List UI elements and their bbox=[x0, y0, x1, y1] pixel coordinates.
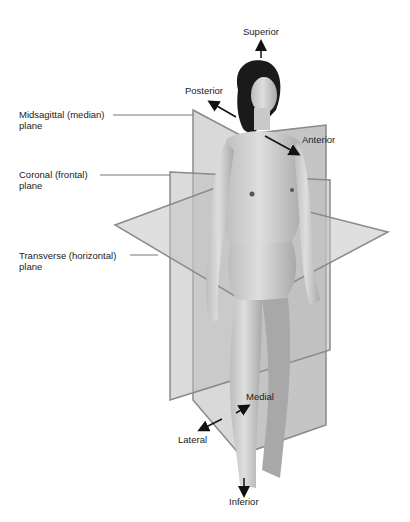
coronal-plane-label: Coronal (frontal) plane bbox=[19, 169, 88, 191]
coronal-label-line1: Coronal (frontal) bbox=[19, 169, 88, 180]
midsagittal-plane-label: Midsagittal (median) plane bbox=[19, 109, 105, 131]
coronal-label-line2: plane bbox=[19, 180, 88, 191]
superior-label: Superior bbox=[243, 26, 279, 37]
inferior-label: Inferior bbox=[229, 496, 259, 507]
transverse-label-line2: plane bbox=[19, 261, 116, 272]
medial-label: Medial bbox=[246, 391, 274, 402]
posterior-label: Posterior bbox=[185, 85, 223, 96]
transverse-plane-label: Transverse (horizontal) plane bbox=[19, 250, 116, 272]
midsagittal-label-line2: plane bbox=[19, 120, 105, 131]
transverse-label-line1: Transverse (horizontal) bbox=[19, 250, 116, 261]
posterior-arrow-icon bbox=[210, 102, 236, 117]
lateral-label: Lateral bbox=[178, 434, 207, 445]
anterior-label: Anterior bbox=[302, 134, 335, 145]
midsagittal-label-line1: Midsagittal (median) bbox=[19, 109, 105, 120]
